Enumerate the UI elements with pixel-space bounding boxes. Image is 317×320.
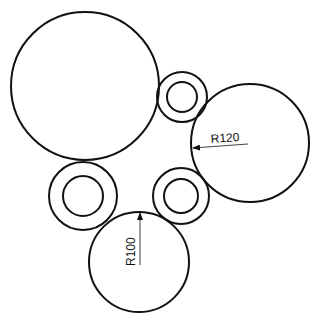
left-ring-outer <box>49 162 117 230</box>
top-ring-outer <box>157 72 207 122</box>
concentric-rings <box>49 72 209 230</box>
middle-ring-inner <box>164 179 198 213</box>
right-circle <box>191 84 309 202</box>
left-ring-inner <box>63 176 103 216</box>
r100-label: R100 <box>124 237 138 266</box>
circles-diagram: R120 R100 <box>0 0 317 320</box>
r120-label: R120 <box>210 130 240 146</box>
plain-circles <box>11 12 309 312</box>
dimension-r120: R120 <box>193 130 248 148</box>
large-circle <box>11 12 159 160</box>
bottom-circle <box>89 212 189 312</box>
dimension-r100: R100 <box>124 213 140 266</box>
middle-ring-outer <box>153 168 209 224</box>
top-ring-inner <box>167 82 197 112</box>
